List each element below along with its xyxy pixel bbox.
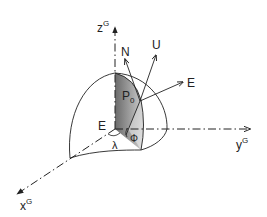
origin-label: E (98, 119, 106, 133)
ellipsoid-equator (70, 129, 167, 158)
y-axis-label: yG (236, 136, 248, 152)
east-label: E (187, 76, 195, 90)
north-label: N (121, 45, 130, 59)
x-axis-label: xG (20, 197, 32, 213)
up-vector (140, 55, 156, 101)
up-label: U (152, 38, 161, 52)
longitude-label: λ (112, 139, 118, 151)
longitude-arc (108, 133, 120, 136)
geodetic-frame-diagram: zG yG xG E P0 N U E λ Φ (0, 0, 267, 217)
latitude-label: Φ (130, 133, 138, 144)
ellipsoid-outline-left (69, 73, 115, 158)
z-axis-label: zG (97, 19, 109, 35)
x-axis (17, 129, 115, 194)
